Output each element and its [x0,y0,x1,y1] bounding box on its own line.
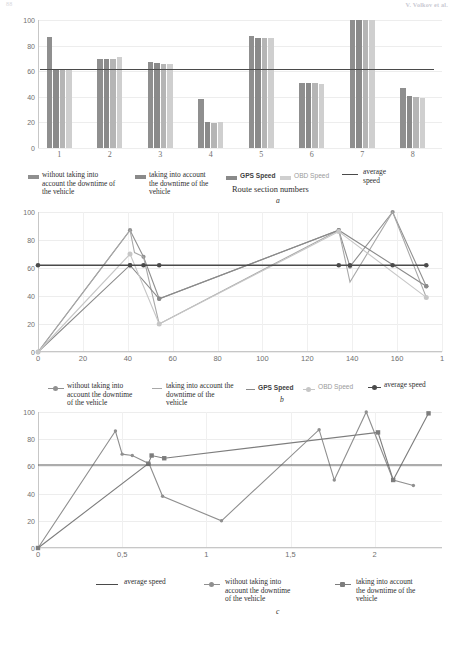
legend-swatch-line-icon [342,174,358,175]
legend-item-c-0[interactable]: average speed [96,578,166,587]
bar-5-4 [268,38,274,148]
legend-swatch-line-icon [152,388,162,389]
figure-b-label: b [280,395,284,404]
series-line-3 [38,230,426,352]
x-axis-tick-label: 40 [124,354,132,363]
bar-2-2 [104,59,110,148]
figure-b: 0204060801000204060801001201401601 [0,208,454,368]
series-marker-1-10 [365,410,368,413]
grid-line [38,548,442,549]
series-marker-2-3 [149,453,153,457]
y-axis-tick-label: 0 [31,545,35,552]
line-series-group [38,412,442,548]
series-marker-2-4 [162,456,166,460]
y-axis-tick-label: 60 [27,463,35,470]
y-axis-tick-label: 80 [27,436,35,443]
legend-item-a-3[interactable]: OBD Speed [280,172,329,180]
running-head: 88 V. Volkov et al. [0,1,454,11]
grid-line-vertical [442,212,443,352]
x-axis-tick-label: 2 [108,150,112,159]
legend-item-a-0[interactable]: without taking into account the downtime… [28,171,118,197]
series-marker-4-4 [336,229,341,234]
legend-swatch-bar-icon [280,176,291,180]
legend-swatch-bar-icon [135,175,146,179]
average-speed-line [40,69,434,71]
grid-line [38,46,442,47]
legend-swatch-line-marker-icon [48,385,64,392]
y-axis-tick-label: 60 [27,68,35,75]
x-axis-tick-label: 120 [301,354,314,363]
series-marker-2-7 [426,411,430,415]
legend-item-b-4[interactable]: average speed [368,381,426,391]
series-marker-5-6 [348,263,353,268]
series-marker-2-6 [391,478,395,482]
figure-page: 88 V. Volkov et al. 02040608010012345678… [0,0,454,646]
series-marker-5-2 [128,263,133,268]
figure-c-plot-area: 02040608010000,511,52 [38,412,442,548]
y-axis-line [38,20,39,148]
y-axis-tick-label: 20 [27,517,35,524]
series-marker-2-1 [36,546,40,550]
bar-3-1 [148,62,154,148]
bar-6-3 [312,83,318,148]
legend-label: without taking into account the downtime… [67,382,133,408]
x-axis-tick-label: 7 [360,150,364,159]
legend-item-c-2[interactable]: taking into account the downtime of the … [335,578,423,604]
bar-4-3 [211,123,217,148]
bar-1-2 [53,69,59,148]
bar-7-2 [356,20,362,148]
x-axis-tick-label: 1 [440,354,444,363]
series-line-2 [38,212,426,352]
series-marker-3-5 [424,284,428,288]
y-axis-tick-label: 40 [27,93,35,100]
figure-c-canvas: 02040608010000,511,52 [38,412,442,548]
series-marker-5-1 [36,263,41,268]
legend-label: without taking into account the downtime… [42,171,118,197]
x-axis-tick-label: 3 [158,150,162,159]
line-series-group [38,212,442,352]
bar-5-3 [262,38,268,148]
x-axis-tick-label: 0 [36,354,40,363]
y-axis-tick-label: 100 [23,209,35,216]
legend-item-a-1[interactable]: taking into account the downtime of the … [135,171,213,197]
legend-label: without taking into account the downtime… [225,578,292,604]
y-axis-tick-label: 60 [27,265,35,272]
series-marker-4-5 [424,295,429,300]
series-marker-1-9 [333,478,336,481]
y-axis-tick-label: 100 [23,17,35,24]
legend-item-b-1[interactable]: taking into account the downtime of the … [152,382,237,408]
legend-label: OBD Speed [318,383,353,391]
series-marker-3-3 [157,297,161,301]
bar-8-1 [400,88,406,148]
legend-item-b-0[interactable]: without taking into account the downtime… [48,382,133,408]
page-number: 88 [6,1,13,7]
x-axis-tick-label: 80 [213,354,221,363]
legend-label: average speed [124,578,166,587]
figure-a-label: a [276,196,280,205]
series-line-4 [38,232,426,352]
legend-item-b-3[interactable]: OBD Speed [303,383,353,393]
bar-3-4 [167,64,173,149]
x-axis-tick-label: 160 [391,354,404,363]
legend-item-b-2[interactable]: GPS Speed [246,384,294,392]
y-axis-tick-label: 20 [27,321,35,328]
bar-7-3 [363,20,369,148]
legend-item-c-1[interactable]: without taking into account the downtime… [204,578,292,604]
bar-3-3 [161,64,167,149]
bar-4-2 [205,122,211,148]
bar-5-2 [255,38,261,148]
legend-item-a-2[interactable]: GPS Speed [226,172,276,180]
x-axis-tick-label: 1,5 [285,550,295,559]
series-marker-4-2 [128,252,133,257]
legend-item-a-4[interactable]: average speed [342,168,402,185]
series-marker-1-7 [220,519,223,522]
grid-line [38,148,442,149]
legend-swatch-line-icon [246,389,255,390]
series-line-1 [38,412,413,548]
figure-a-axis-title: Route section numbers [232,185,309,194]
series-marker-5-4 [157,263,162,268]
legend-label: OBD Speed [294,172,329,180]
bar-6-4 [319,84,325,148]
grid-line [38,20,442,21]
x-axis-tick-label: 0 [36,550,40,559]
